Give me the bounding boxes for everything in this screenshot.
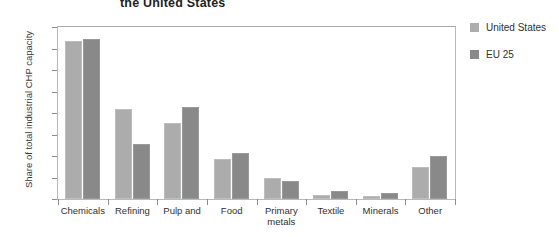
legend-item-united-states[interactable]: United States [470, 22, 546, 33]
bar-group [58, 27, 108, 199]
chart-legend: United States EU 25 [470, 22, 546, 76]
bar-group [108, 27, 158, 199]
bar-united-states[interactable] [214, 159, 231, 199]
chart-container: the United States Share of total industr… [0, 0, 559, 237]
bar-eu-25[interactable] [381, 193, 398, 199]
y-tick-mark [52, 199, 57, 200]
y-tick-mark [52, 92, 57, 93]
y-tick-mark [52, 156, 57, 157]
bar-group [207, 27, 257, 199]
bar-group [306, 27, 356, 199]
bar-eu-25[interactable] [232, 153, 249, 199]
y-tick-mark [52, 178, 57, 179]
bar-eu-25[interactable] [133, 144, 150, 199]
y-tick-mark [52, 113, 57, 114]
bars-area [58, 27, 455, 199]
y-tick-mark [52, 135, 57, 136]
bar-eu-25[interactable] [331, 191, 348, 199]
y-axis-title: Share of total industrial CHP capacity [23, 20, 34, 200]
legend-swatch-eu-25 [470, 50, 479, 59]
bar-united-states[interactable] [65, 41, 82, 199]
y-tick-mark [52, 70, 57, 71]
legend-swatch-united-states [470, 23, 479, 32]
bar-eu-25[interactable] [430, 156, 447, 199]
x-axis-label: Other [399, 205, 461, 216]
bar-united-states[interactable] [363, 196, 380, 199]
bar-eu-25[interactable] [282, 181, 299, 199]
y-tick-mark [52, 49, 57, 50]
bar-united-states[interactable] [313, 195, 330, 199]
bar-united-states[interactable] [164, 123, 181, 199]
chart-title: the United States [120, 0, 380, 10]
bar-united-states[interactable] [264, 178, 281, 200]
bar-eu-25[interactable] [182, 107, 199, 199]
legend-label-united-states: United States [486, 22, 546, 33]
bar-group [257, 27, 307, 199]
bar-united-states[interactable] [115, 109, 132, 199]
bar-group [356, 27, 406, 199]
bar-group [157, 27, 207, 199]
legend-item-eu-25[interactable]: EU 25 [470, 49, 546, 60]
bar-united-states[interactable] [412, 167, 429, 199]
legend-label-eu-25: EU 25 [486, 49, 514, 60]
bar-eu-25[interactable] [83, 39, 100, 199]
bar-group [405, 27, 455, 199]
y-tick-mark [52, 27, 57, 28]
